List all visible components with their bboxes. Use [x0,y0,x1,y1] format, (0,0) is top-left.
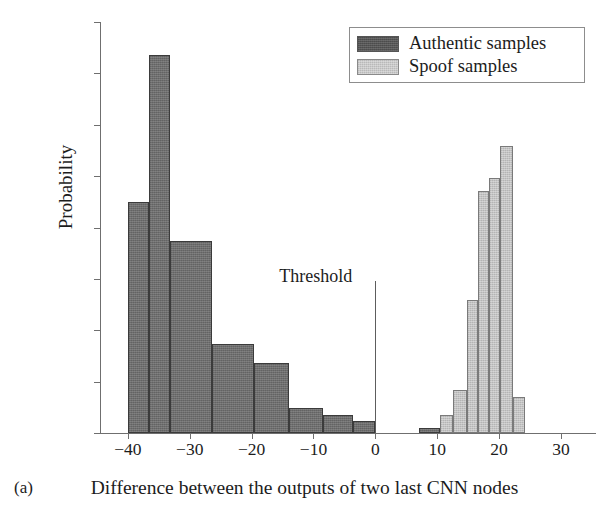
bar-authentic [254,363,289,433]
x-tick-label: 20 [490,441,508,459]
x-tick-label: 30 [552,441,570,459]
bar-spoof [500,146,512,433]
bar-spoof [478,191,489,433]
bar-authentic [212,344,254,433]
x-tick-label: 0 [371,441,380,459]
threshold-line [375,281,376,433]
x-axis-title: Difference between the outputs of two la… [0,477,609,499]
bar-authentic [353,421,375,433]
bar-spoof [489,178,500,433]
x-tick-label: −30 [176,441,203,459]
y-axis-title: Probability [55,107,77,267]
legend-item-authentic: Authentic samples [357,32,578,55]
bar-authentic [128,202,149,433]
x-tick-label: 10 [428,441,446,459]
bar-authentic [323,415,353,433]
bar-authentic [419,428,440,433]
legend-swatch-spoof-icon [357,59,399,75]
legend-item-spoof: Spoof samples [357,55,578,78]
legend-label-authentic: Authentic samples [409,34,546,53]
threshold-label: Threshold [279,266,352,287]
bar-spoof [453,390,467,433]
legend: Authentic samples Spoof samples [349,27,585,83]
bar-spoof [440,415,454,433]
legend-swatch-authentic-icon [357,36,399,52]
x-tick-label: −40 [114,441,141,459]
x-axis-line [100,433,596,434]
plot-area: Threshold [100,22,595,433]
bar-authentic [149,55,170,433]
y-tick [94,433,101,434]
bar-spoof [467,300,478,433]
bar-spoof [513,397,525,433]
figure-panel-a: Probability 00.050.10.150.20.250.30.350.… [0,0,609,527]
bar-authentic [289,408,324,433]
bar-authentic [170,241,212,433]
x-tick-label: −10 [300,441,327,459]
legend-label-spoof: Spoof samples [409,57,517,76]
x-tick-label: −20 [238,441,265,459]
